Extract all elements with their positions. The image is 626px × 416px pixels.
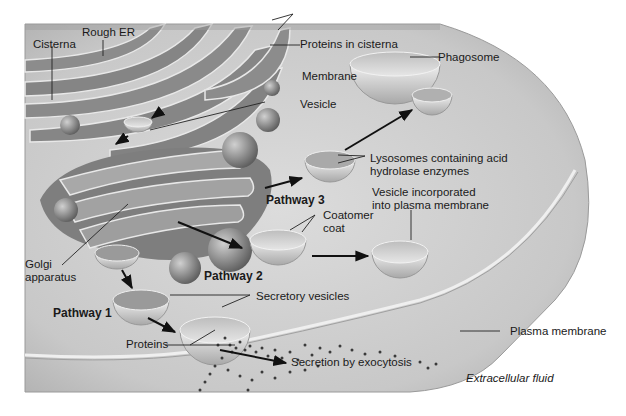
label-pathway-2: Pathway 2 — [204, 270, 263, 283]
label-coatomer-line1: Coatomer — [323, 209, 374, 222]
label-lysosomes-line1: Lysosomes containing acid — [370, 152, 508, 165]
label-pathway-3: Pathway 3 — [266, 194, 325, 207]
vesicle-ball — [54, 198, 78, 222]
cell-illustration — [0, 0, 626, 416]
vesicle-ball — [256, 108, 280, 132]
label-plasma-membrane: Plasma membrane — [510, 325, 607, 338]
label-vesicle: Vesicle — [300, 98, 336, 111]
label-secretory-vesicles: Secretory vesicles — [256, 290, 349, 303]
label-vesicle-incorporated-line1: Vesicle incorporated — [372, 186, 476, 199]
label-golgi-line1: Golgi — [25, 258, 52, 271]
label-secretion-by-exocytosis: Secretion by exocytosis — [291, 356, 412, 369]
label-proteins: Proteins — [126, 338, 168, 351]
label-cisterna: Cisterna — [33, 38, 76, 51]
cell-diagram: Cisterna Rough ER Proteins in cisterna M… — [0, 0, 626, 416]
label-membrane: Membrane — [302, 70, 357, 83]
label-lysosomes-line2: hydrolase enzymes — [370, 165, 469, 178]
label-coatomer-line2: coat — [323, 222, 345, 235]
label-pathway-1: Pathway 1 — [53, 307, 112, 320]
label-golgi-line2: apparatus — [25, 271, 76, 284]
vesicle-ball — [60, 115, 80, 135]
label-rough-er: Rough ER — [82, 26, 135, 39]
label-vesicle-incorporated-line2: into plasma membrane — [372, 199, 489, 212]
label-extracellular-fluid: Extracellular fluid — [466, 372, 554, 385]
label-phagosome: Phagosome — [438, 51, 499, 64]
label-proteins-in-cisterna: Proteins in cisterna — [300, 38, 398, 51]
vesicle-ball — [264, 80, 280, 96]
